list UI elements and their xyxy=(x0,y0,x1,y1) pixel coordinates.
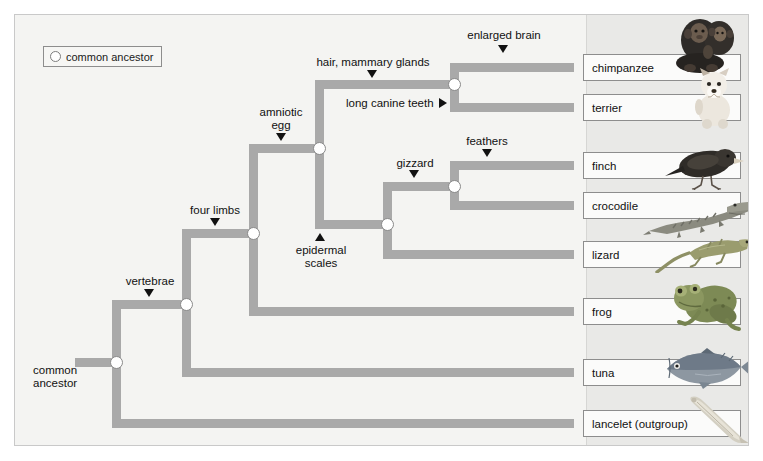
taxon-label-lancelet: lancelet (outgroup) xyxy=(592,418,688,430)
trait-label-gizzard: gizzard xyxy=(375,157,455,170)
trait-arrow-vertebrae xyxy=(144,289,154,297)
branch-crocodile xyxy=(450,201,574,210)
node-reptile xyxy=(381,218,394,231)
taxon-label-terrier: terrier xyxy=(592,102,622,114)
branch-reptile-to-archosaur xyxy=(383,182,458,191)
trait-arrow-amniotic-egg xyxy=(276,133,286,141)
taxon-box-lizard[interactable]: lizard xyxy=(583,241,741,268)
branch-amniote-to-mammal xyxy=(315,80,458,89)
phylogenetic-tree-figure: common ancestor xyxy=(0,0,763,461)
taxon-box-finch[interactable]: finch xyxy=(583,152,741,179)
taxon-box-crocodile[interactable]: crocodile xyxy=(583,192,741,219)
trait-arrow-enlarged-brain xyxy=(498,45,508,53)
trait-arrow-epidermal-scales xyxy=(315,233,325,241)
branch-terrier xyxy=(450,103,574,112)
root-label-line1: common xyxy=(33,364,77,377)
root-label-line2: ancestor xyxy=(33,377,77,390)
trait-label-four-limbs: four limbs xyxy=(170,204,260,217)
taxon-label-crocodile: crocodile xyxy=(592,200,638,212)
taxon-label-lizard: lizard xyxy=(592,249,619,261)
trait-arrow-gizzard xyxy=(409,170,419,178)
trait-label-amniotic-egg-line2: egg xyxy=(236,119,326,132)
node-mammal xyxy=(448,78,461,91)
branch-frog xyxy=(249,307,574,316)
taxon-box-terrier[interactable]: terrier xyxy=(583,94,741,121)
trait-arrow-hair-mammary-glands xyxy=(367,70,377,78)
branch-root-to-vertebrate xyxy=(112,300,190,309)
taxon-box-frog[interactable]: frog xyxy=(583,298,741,325)
node-tetrapod xyxy=(247,227,260,240)
branch-amniote-to-reptile xyxy=(315,220,391,229)
taxon-box-lancelet[interactable]: lancelet (outgroup) xyxy=(583,410,741,437)
taxon-label-chimpanzee: chimpanzee xyxy=(592,62,654,74)
trait-label-epidermal-scales: epidermal scales xyxy=(276,244,366,270)
trait-label-enlarged-brain: enlarged brain xyxy=(439,29,569,42)
taxon-label-finch: finch xyxy=(592,160,616,172)
branch-lancelet xyxy=(112,419,574,428)
figure-panel: common ancestor xyxy=(14,14,749,446)
branch-tuna xyxy=(182,368,574,377)
trait-label-feathers: feathers xyxy=(442,135,532,148)
trait-arrow-four-limbs xyxy=(210,218,220,226)
node-root-common-ancestor xyxy=(110,356,123,369)
branch-lizard xyxy=(383,250,574,259)
branch-finch xyxy=(450,161,574,170)
taxon-box-chimpanzee[interactable]: chimpanzee xyxy=(583,54,741,81)
open-circle-icon xyxy=(50,51,61,62)
trait-label-epidermal-scales-line2: scales xyxy=(276,257,366,270)
trait-arrow-long-canine-teeth xyxy=(439,98,447,108)
trait-label-vertebrae: vertebrae xyxy=(105,275,195,288)
node-amniote xyxy=(313,142,326,155)
legend-label: common ancestor xyxy=(66,51,153,63)
legend-common-ancestor: common ancestor xyxy=(43,46,162,67)
taxon-box-tuna[interactable]: tuna xyxy=(583,359,741,386)
branch-chimpanzee xyxy=(450,63,574,72)
branch-tetrapod-to-amniote xyxy=(249,144,323,153)
trait-arrow-feathers xyxy=(482,149,492,157)
trait-label-amniotic-egg: amniotic egg xyxy=(236,106,326,132)
node-archosaur xyxy=(448,180,461,193)
trait-label-epidermal-scales-line1: epidermal xyxy=(276,244,366,257)
trait-label-long-canine-teeth: long canine teeth xyxy=(346,97,434,110)
taxon-label-frog: frog xyxy=(592,306,612,318)
branch-vertebrate-to-tetrapod xyxy=(182,229,257,238)
trait-label-amniotic-egg-line1: amniotic xyxy=(236,106,326,119)
trait-label-hair-mammary-glands: hair, mammary glands xyxy=(303,56,443,69)
taxon-label-tuna: tuna xyxy=(592,367,614,379)
root-common-ancestor-label: common ancestor xyxy=(33,364,77,390)
node-vertebrate xyxy=(180,298,193,311)
